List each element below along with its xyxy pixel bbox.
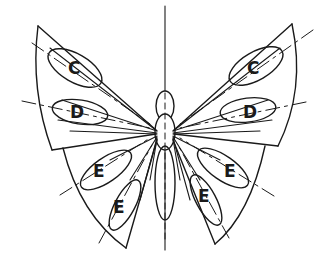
left-ellipse-e-lower [99,145,152,243]
label-right-e-lower: E [198,186,210,206]
label-left-e-upper: E [93,161,105,181]
label-right-c: C [247,58,259,78]
label-left-c: C [68,58,80,78]
butterfly-diagram: C D E E C D E E [0,0,329,269]
label-right-e-upper: E [224,161,236,181]
left-hindwing [63,140,157,248]
label-left-e-lower: E [113,197,125,217]
right-hindwing [173,140,265,244]
left-ellipse-c [32,41,150,124]
label-right-d: D [243,102,257,122]
butterfly-svg: C D E E C D E E [0,0,329,269]
label-left-d: D [70,102,84,122]
